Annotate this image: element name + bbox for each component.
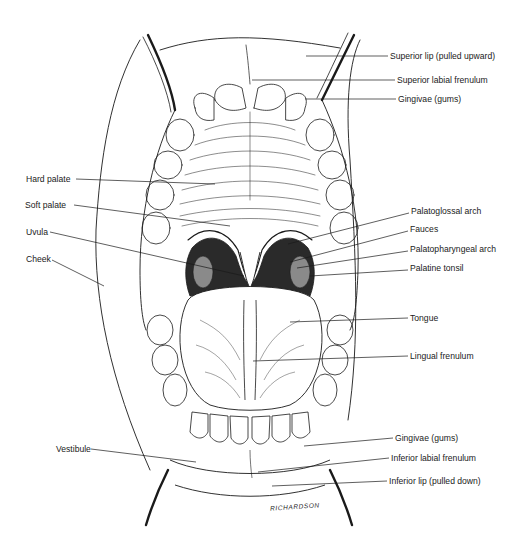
label-inferior-labial-frenulum: Inferior labial frenulum <box>391 453 476 463</box>
leader-line-hard-palate <box>76 179 215 184</box>
label-palatopharyngeal-arch: Palatopharyngeal arch <box>410 244 496 254</box>
leader-line-fauces <box>290 231 408 262</box>
label-uvula: Uvula <box>26 227 48 237</box>
label-superior-lip: Superior lip (pulled upward) <box>390 51 495 61</box>
hard-palate-rugae <box>180 112 320 226</box>
label-vestibule: Vestibule <box>56 444 91 454</box>
superior-lip <box>160 38 340 50</box>
superior-labial-frenulum <box>246 45 250 84</box>
retractor-lower-right <box>330 470 352 525</box>
label-tongue: Tongue <box>410 313 438 323</box>
label-lingual-frenulum: Lingual frenulum <box>410 351 474 361</box>
label-gingivae-lower: Gingivae (gums) <box>395 433 458 443</box>
label-palatine-tonsil: Palatine tonsil <box>410 263 464 273</box>
leader-line-palatoglossal-arch <box>288 213 409 244</box>
label-soft-palate: Soft palate <box>25 200 66 210</box>
face-outline-left <box>96 40 150 470</box>
label-superior-labial-frenulum: Superior labial frenulum <box>397 75 488 85</box>
lower-lip-edge <box>175 485 325 496</box>
tongue <box>180 287 322 411</box>
leader-line-inferior-lip <box>272 481 387 486</box>
label-inferior-lip: Inferior lip (pulled down) <box>389 476 481 486</box>
leader-line-inferior-labial-frenulum <box>258 458 389 472</box>
retractor-right-inner <box>317 33 348 98</box>
label-palatoglossal-arch: Palatoglossal arch <box>411 206 481 216</box>
leader-line-palatopharyngeal-arch <box>297 251 408 268</box>
label-hard-palate: Hard palate <box>26 174 70 184</box>
retractor-lower-left <box>146 470 168 525</box>
palatine-tonsil-left <box>193 256 213 288</box>
leader-line-soft-palate <box>74 205 230 226</box>
leader-line-vestibule <box>91 449 196 462</box>
upper-arch-outer <box>140 110 175 330</box>
label-gingivae-upper: Gingivae (gums) <box>398 94 461 104</box>
retractor-left <box>148 35 175 110</box>
label-cheek: Cheek <box>26 254 51 264</box>
leader-line-palatine-tonsil <box>310 270 408 276</box>
palatine-tonsil-right <box>290 256 310 288</box>
label-fauces: Fauces <box>410 224 438 234</box>
leader-line-gingivae-lower <box>304 438 393 446</box>
